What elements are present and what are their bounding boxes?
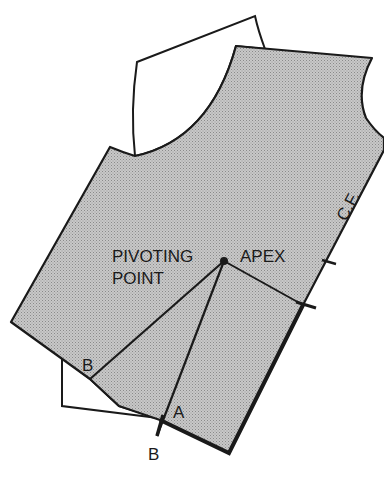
apex-point-dot	[220, 257, 228, 265]
pattern-diagram: PIVOTING POINT APEX B A B C.F.	[0, 0, 384, 484]
apex-label: APEX	[240, 247, 285, 266]
point-b-upper-label: B	[82, 356, 93, 375]
point-a-label: A	[173, 403, 185, 422]
pivoting-point-label-line2: POINT	[112, 269, 164, 288]
point-b-lower-label: B	[148, 445, 159, 464]
pivoting-point-label-line1: PIVOTING	[112, 247, 193, 266]
